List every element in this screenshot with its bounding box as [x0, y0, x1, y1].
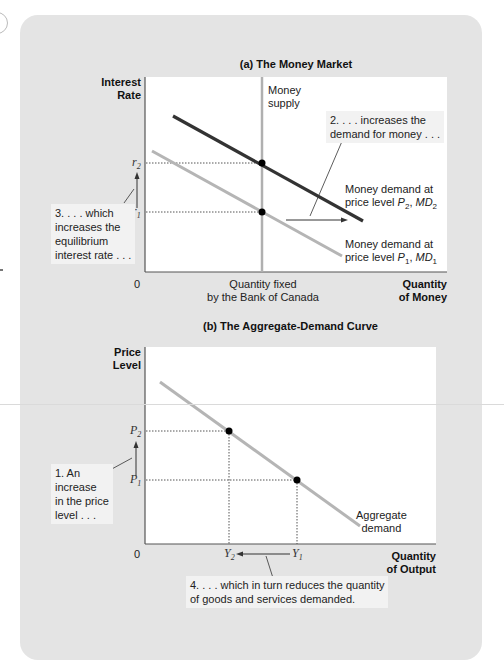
- label-line: of Money: [370, 291, 447, 304]
- label-line: Quantity fixed: [202, 278, 324, 291]
- arrowhead-icon: [135, 172, 140, 179]
- note-1-leader: [110, 458, 132, 470]
- note-line: level . . .: [55, 508, 109, 522]
- label-line: Money: [268, 84, 301, 97]
- tick-p1: P1: [130, 472, 141, 488]
- note-line: increase: [55, 480, 109, 494]
- label-line: supply: [268, 97, 301, 110]
- ad-curve-title: (b) The Aggregate-Demand Curve: [145, 320, 436, 332]
- label-line: Money demand at: [345, 238, 437, 251]
- interest-rate-label: Interest Rate: [80, 76, 141, 102]
- tick-p2: P2: [130, 423, 141, 439]
- label-line: Money demand at: [345, 183, 437, 196]
- scan-artifact-line: [0, 404, 504, 405]
- note-2-increases-demand: 2. . . . increases the demand for money …: [326, 111, 444, 143]
- y-axis-label-line: Rate: [80, 89, 141, 102]
- label-line: price level P1, MD1: [345, 251, 437, 268]
- note-line: in the price: [55, 494, 109, 508]
- ad-point-p1: [294, 477, 301, 484]
- money-market-title: (a) The Money Market: [145, 58, 447, 70]
- label-line: Price: [80, 346, 141, 359]
- label-line: by the Bank of Canada: [202, 291, 324, 304]
- note-line: 1. An: [55, 466, 109, 480]
- label-line: of Output: [360, 563, 436, 576]
- arrowhead-icon: [134, 441, 139, 448]
- md2-label: Money demand at price level P2, MD2: [345, 183, 437, 213]
- note-line: interest rate . . .: [55, 248, 131, 262]
- note-line: 2. . . . increases the: [330, 113, 440, 127]
- money-supply-label: Money supply: [268, 84, 301, 110]
- tick-r2: r2: [132, 155, 141, 171]
- equilibrium-point-r2: [259, 160, 266, 167]
- note-4-reduces-output: 4. . . . which in turn reduces the quant…: [186, 576, 388, 608]
- ad-point-p2: [226, 428, 233, 435]
- origin-a: 0: [134, 278, 140, 291]
- aggregate-demand-label: Aggregate demand: [356, 509, 407, 535]
- arrowhead-icon: [236, 552, 243, 557]
- note-line: of goods and services demanded.: [190, 592, 384, 606]
- note-3-increases-rate: 3. . . . which increases the equilibrium…: [51, 204, 135, 264]
- label-line: demand: [356, 522, 407, 535]
- tick-y1: Y1: [292, 546, 303, 562]
- note-line: demand for money . . .: [330, 127, 440, 141]
- price-level-label: Price Level: [80, 346, 141, 372]
- note-line: 3. . . . which: [55, 206, 131, 220]
- label-line: price level P2, MD2: [345, 196, 437, 213]
- label-line: Level: [80, 359, 141, 372]
- note-line: increases the: [55, 220, 131, 234]
- y-axis-label-line: Interest: [80, 76, 141, 89]
- equilibrium-point-r1: [259, 209, 266, 216]
- label-line: Quantity: [360, 550, 436, 563]
- quantity-of-output-label: Quantity of Output: [360, 550, 436, 576]
- quantity-fixed-label: Quantity fixed by the Bank of Canada: [202, 278, 324, 304]
- label-line: Aggregate: [356, 509, 407, 522]
- note-line: 4. . . . which in turn reduces the quant…: [190, 578, 384, 592]
- label-line: Quantity: [370, 278, 447, 291]
- quantity-of-money-label: Quantity of Money: [370, 278, 447, 304]
- note-line: equilibrium: [55, 234, 131, 248]
- note-3-leader: [124, 189, 134, 203]
- md1-label: Money demand at price level P1, MD1: [345, 238, 437, 268]
- tick-y2: Y2: [224, 546, 235, 562]
- note-4-leader: [266, 556, 273, 578]
- note-1-price-increase: 1. An increase in the price level . . .: [51, 464, 113, 524]
- origin-b: 0: [134, 548, 140, 561]
